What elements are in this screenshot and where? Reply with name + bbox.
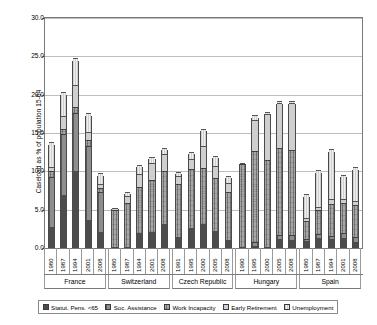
legend-swatch-soc-assistance xyxy=(105,304,111,310)
bar-segment-work_incapacity xyxy=(240,164,245,247)
legend-swatch-early-retirement xyxy=(223,304,229,310)
stacked-bar xyxy=(124,194,131,248)
country-group-label: Spain xyxy=(299,275,361,289)
bar-segment-early_retirement xyxy=(162,154,167,171)
legend-label: Statut. Pens. <65 xyxy=(51,304,98,311)
y-tick-label: 5.0 xyxy=(10,206,44,213)
bar-segment-unemployment xyxy=(353,167,358,201)
bar-segment-social_assistance xyxy=(73,113,78,172)
x-tick-label: 2001 xyxy=(149,258,155,272)
legend-label: Soc. Assistance xyxy=(114,304,157,311)
bar-segment-work_incapacity xyxy=(189,169,194,228)
bar-segment-unemployment xyxy=(49,142,54,167)
bar-segment-work_incapacity xyxy=(316,210,321,234)
x-tick-label: 2008 xyxy=(352,258,358,272)
bar-segment-work_incapacity xyxy=(125,203,130,247)
x-tick-cell: 2008 xyxy=(349,248,361,274)
stacked-bar xyxy=(288,104,295,248)
bar-segment-social_assistance xyxy=(49,177,54,228)
x-tick-cell: 1994 xyxy=(324,248,336,274)
bar-segment-unemployment xyxy=(201,129,206,147)
x-tick-cell: 2008 xyxy=(157,248,169,274)
x-tick-label: 1987 xyxy=(124,258,130,272)
bar-segment-work_incapacity xyxy=(265,160,270,247)
x-tick-cell: 1994 xyxy=(69,248,81,274)
bar-segment-statutory_pensions_under65 xyxy=(162,224,167,247)
stacked-bar xyxy=(276,104,283,248)
bar-segment-work_incapacity xyxy=(213,178,218,231)
bar-segment-early_retirement xyxy=(73,85,78,107)
bar-segment-statutory_pensions_under65 xyxy=(304,241,309,247)
bar-segment-statutory_pensions_under65 xyxy=(341,238,346,247)
x-tick-label: 2005 xyxy=(212,258,218,272)
bars-container xyxy=(45,18,362,248)
bar-segment-unemployment xyxy=(213,156,218,166)
stacked-bar xyxy=(97,176,104,248)
stacked-bar xyxy=(328,152,335,248)
bar-segment-early_retirement xyxy=(61,116,66,129)
bar-segment-statutory_pensions_under65 xyxy=(49,227,54,247)
y-tick-label: 10.0 xyxy=(10,168,44,175)
bar-segment-social_assistance xyxy=(98,192,103,232)
bar-segment-early_retirement xyxy=(176,176,181,184)
stacked-bar xyxy=(175,174,182,248)
stacked-bar xyxy=(352,170,359,248)
country-group-label: Switzerland xyxy=(108,275,170,289)
bar-segment-statutory_pensions_under65 xyxy=(226,240,231,247)
bar-segment-early_retirement xyxy=(252,120,257,151)
legend-swatch-statut-pens xyxy=(43,304,49,310)
bar-segment-early_retirement xyxy=(213,166,218,178)
legend-label: Work Incapacity xyxy=(172,304,215,311)
legend-item: Statut. Pens. <65 xyxy=(43,304,98,311)
bar-segment-work_incapacity xyxy=(112,210,117,247)
country-group-label: Hungary xyxy=(235,275,297,289)
stacked-bar xyxy=(200,131,207,248)
bar-segment-work_incapacity xyxy=(329,204,334,236)
bar-segment-statutory_pensions_under65 xyxy=(329,239,334,247)
country-group-label: France xyxy=(44,275,106,289)
bar-segment-work_incapacity xyxy=(289,150,294,236)
bar-segment-work_incapacity xyxy=(162,171,167,224)
bar-segment-work_incapacity xyxy=(353,205,358,237)
stacked-bar xyxy=(225,178,232,248)
legend-swatch-unemployment xyxy=(284,304,290,310)
x-axis-year-labels: 1980198719942001200819801987199420012008… xyxy=(44,249,363,275)
stacked-bar xyxy=(251,118,258,248)
bar-segment-early_retirement xyxy=(86,132,91,141)
bar-segment-unemployment xyxy=(304,194,309,219)
legend-item: Soc. Assistance xyxy=(105,304,157,311)
x-tick-label: 2000 xyxy=(264,258,270,272)
y-tick-label: 25.0 xyxy=(10,53,44,60)
y-tick-label: 0.0 xyxy=(10,244,44,251)
bar-segment-statutory_pensions_under65 xyxy=(353,242,358,247)
x-tick-label: 1990 xyxy=(239,258,245,272)
country-group-label: Czech Republic xyxy=(172,275,234,289)
bar-segment-unemployment xyxy=(86,113,91,131)
legend-item: Early Retirement xyxy=(223,304,277,311)
bar-segment-statutory_pensions_under65 xyxy=(61,195,66,247)
bar-segment-statutory_pensions_under65 xyxy=(277,239,282,247)
bar-segment-statutory_pensions_under65 xyxy=(137,233,142,247)
legend-swatch-work-incapacity xyxy=(164,304,170,310)
x-tick-cell: 1980 xyxy=(108,248,120,274)
stacked-bar xyxy=(264,114,271,248)
bar-segment-early_retirement xyxy=(265,114,270,160)
stacked-bar xyxy=(148,159,155,248)
x-tick-label: 1994 xyxy=(136,258,142,272)
x-tick-label: 1987 xyxy=(60,258,66,272)
x-axis-country-labels: FranceSwitzerlandCzech RepublicHungarySp… xyxy=(44,275,363,289)
x-tick-cell: 1987 xyxy=(312,248,324,274)
bar-segment-unemployment xyxy=(189,152,194,160)
stacked-bar-chart: Caseload as % of population 15-64 0.05.0… xyxy=(0,0,377,325)
stacked-bar xyxy=(315,173,322,248)
x-tick-label: 2001 xyxy=(85,258,91,272)
x-tick-label: 1980 xyxy=(111,258,117,272)
bar-segment-statutory_pensions_under65 xyxy=(86,220,91,247)
x-tick-cell: 2000 xyxy=(196,248,208,274)
legend-item: Unemployment xyxy=(284,304,333,311)
x-tick-cell: 1991 xyxy=(172,248,184,274)
bar-segment-early_retirement xyxy=(125,196,130,204)
x-tick-label: 1980 xyxy=(48,258,54,272)
x-tick-cell: 1990 xyxy=(235,248,247,274)
bar-segment-statutory_pensions_under65 xyxy=(252,246,257,248)
